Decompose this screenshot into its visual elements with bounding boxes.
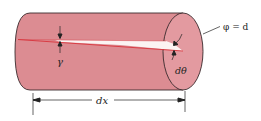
length-dimension: [33, 91, 185, 115]
end-face-leader-line: [203, 27, 220, 35]
arrow-left-icon: [33, 98, 40, 102]
arrow-right-icon: [178, 98, 185, 102]
gamma-label: γ: [57, 56, 63, 67]
cylinder-end-face: [163, 13, 203, 90]
torsion-shaft-diagram: γ dθ φ = d dx: [0, 0, 261, 121]
dtheta-label: dθ: [175, 65, 187, 76]
dx-label: dx: [96, 95, 108, 106]
cylinder-body: [15, 13, 183, 90]
phi-label: φ = d: [223, 22, 249, 32]
